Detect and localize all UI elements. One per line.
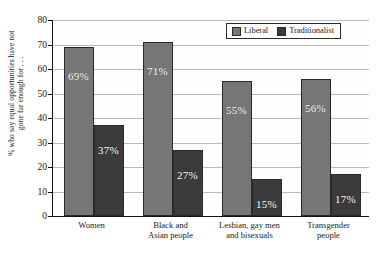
- bar-liberal-0: 69%: [64, 47, 94, 216]
- y-axis-title-line1: % who say equal opportunities have not: [7, 0, 16, 193]
- bar-value-label: 55%: [223, 104, 251, 116]
- y-axis-tick-label: 70: [19, 40, 47, 50]
- bar-value-label: 56%: [302, 102, 330, 114]
- legend-item-liberal: Liberal: [232, 26, 268, 36]
- legend-label: Traditionalist: [289, 26, 334, 36]
- y-axis-tick-label: 50: [19, 89, 47, 99]
- bar-traditionalist-0: 37%: [94, 125, 124, 216]
- y-axis-tick-label: 10: [19, 187, 47, 197]
- x-axis-category-line: people: [289, 231, 368, 241]
- bar-value-label: 71%: [144, 65, 172, 77]
- bar-liberal-3: 56%: [301, 79, 331, 216]
- chart-legend: LiberalTraditionalist: [226, 23, 341, 39]
- bar-traditionalist-1: 27%: [173, 150, 203, 216]
- legend-item-trad: Traditionalist: [277, 26, 334, 36]
- bar-value-label: 69%: [65, 70, 93, 82]
- bar-traditionalist-2: 15%: [252, 179, 282, 216]
- plot-area: 01020304050607080 69%37%71%27%55%15%56%1…: [52, 20, 369, 217]
- y-axis-tick-label: 20: [19, 162, 47, 172]
- legend-swatch-icon: [232, 27, 241, 36]
- bar-traditionalist-3: 17%: [331, 174, 361, 216]
- legend-swatch-icon: [277, 27, 286, 36]
- y-axis-tick-label: 30: [19, 138, 47, 148]
- bar-value-label: 15%: [253, 198, 281, 210]
- bar-value-label: 37%: [95, 144, 123, 156]
- x-axis-category-label: Lesbian, gay menand bisexuals: [210, 221, 289, 240]
- x-axis-category-label: Women: [52, 221, 131, 231]
- bars-layer: 69%37%71%27%55%15%56%17%: [53, 20, 369, 216]
- bar-value-label: 17%: [332, 193, 360, 205]
- x-axis-category-label: Black andAsian people: [131, 221, 210, 240]
- x-axis-category-line: Women: [52, 221, 131, 231]
- y-axis-tick-label: 80: [19, 15, 47, 25]
- x-axis-category-line: Asian people: [131, 231, 210, 241]
- y-axis-tick: [48, 216, 53, 217]
- x-axis-category-line: and bisexuals: [210, 231, 289, 241]
- bar-value-label: 27%: [174, 169, 202, 181]
- y-axis-tick-label: 40: [19, 113, 47, 123]
- legend-label: Liberal: [244, 26, 268, 36]
- bar-liberal-2: 55%: [222, 81, 252, 216]
- bar-chart: % who say equal opportunities have not g…: [0, 0, 384, 264]
- y-axis-tick-label: 60: [19, 64, 47, 74]
- x-axis-category-label: Transgenderpeople: [289, 221, 368, 240]
- y-axis-tick-label: 0: [19, 211, 47, 221]
- bar-liberal-1: 71%: [143, 42, 173, 216]
